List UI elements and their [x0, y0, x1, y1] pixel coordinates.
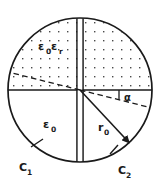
label-epsilon-0-epsilon: ε — [43, 118, 49, 131]
label-epsilon-0-eps-r-epsilon: ε — [38, 40, 44, 53]
label-epsilon-0-eps-r-r: r — [59, 47, 63, 56]
label-electrode-c2: C 2 — [118, 164, 131, 180]
label-c1-sub: 1 — [27, 168, 32, 177]
label-epsilon-0-eps-r-epsilon2: ε — [51, 40, 57, 53]
label-r0-zero: 0 — [104, 128, 109, 137]
label-epsilon-0-zero: 0 — [51, 125, 56, 134]
label-angle-alpha: α — [124, 92, 131, 103]
label-electrode-c1: C 1 — [19, 161, 32, 177]
diagram-canvas: ε 0 ε r ε 0 r 0 α C 1 C 2 — [0, 0, 163, 180]
label-c1-c: C — [19, 161, 27, 174]
figure-diagram: ε 0 ε r ε 0 r 0 α C 1 C 2 — [0, 0, 163, 180]
label-c2-sub: 2 — [126, 171, 131, 180]
label-c2-c: C — [118, 164, 126, 177]
